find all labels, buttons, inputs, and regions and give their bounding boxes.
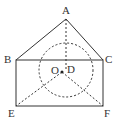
label-a: A [62,4,70,16]
label-f: F [104,107,110,119]
segment-of [62,72,103,106]
label-o: O [51,64,59,76]
label-b: B [4,53,11,65]
label-c: C [105,53,112,65]
label-d: D [67,63,75,75]
geometry-figure: A B C D O E F [0,0,118,125]
triangle-sides [16,19,103,60]
label-e: E [8,107,15,119]
point-o-dot [61,71,64,74]
segment-oe [16,72,62,106]
